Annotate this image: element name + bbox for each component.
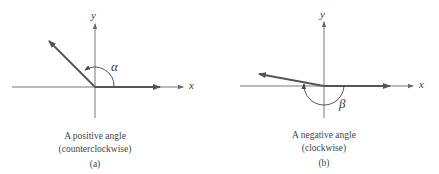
sublabel-a: (a) [45,158,145,171]
angle-label-beta: β [339,96,345,112]
caption-b-line2: (clockwise) [274,142,374,155]
caption-a-line2: (counterclockwise) [45,143,145,156]
caption-b: A negative angle (clockwise) (b) [274,129,374,170]
panel-b [240,22,413,118]
y-axis-label-b: y [320,8,325,20]
caption-a: A positive angle (counterclockwise) (a) [45,130,145,171]
terminal-side-ray [49,41,95,87]
x-axis-label-a: x [189,79,194,91]
x-axis-label-b: x [419,78,424,90]
angle-arc-counterclockwise [85,67,114,87]
y-axis-label-a: y [91,9,96,21]
caption-b-line1: A negative angle [274,129,374,142]
panel-a [12,24,183,118]
caption-a-line1: A positive angle [45,130,145,143]
terminal-side-ray [259,74,324,86]
angle-label-alpha: α [111,59,118,75]
sublabel-b: (b) [274,157,374,170]
